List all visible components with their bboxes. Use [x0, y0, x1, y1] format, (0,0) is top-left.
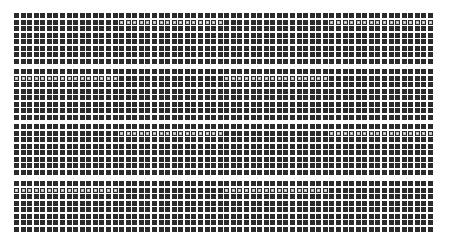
dark-square — [375, 227, 380, 232]
highlighted-square — [152, 131, 157, 136]
dark-square — [139, 188, 144, 193]
dark-square — [303, 144, 308, 149]
dark-square — [395, 102, 400, 107]
dark-square — [303, 102, 308, 107]
dark-square — [356, 137, 361, 142]
dark-square — [80, 131, 85, 136]
dark-square — [283, 207, 288, 212]
dark-square — [119, 108, 124, 113]
dark-square — [211, 82, 216, 87]
dark-square — [40, 201, 45, 206]
dark-square — [421, 207, 426, 212]
dark-square — [165, 108, 170, 113]
dark-square — [277, 131, 282, 136]
dark-square — [224, 33, 229, 38]
dark-square — [408, 227, 413, 232]
dark-square — [27, 131, 32, 136]
dark-square — [145, 39, 150, 44]
dark-square — [421, 188, 426, 193]
dark-square — [159, 89, 164, 94]
dark-square — [244, 82, 249, 87]
dark-square — [356, 76, 361, 81]
dark-square — [283, 89, 288, 94]
dark-square — [303, 137, 308, 142]
dark-square — [270, 33, 275, 38]
dark-square — [290, 163, 295, 168]
dark-square — [191, 89, 196, 94]
dark-square — [231, 20, 236, 25]
highlighted-square — [277, 188, 282, 193]
dark-square — [382, 170, 387, 175]
dark-square — [402, 220, 407, 225]
dark-square — [415, 108, 420, 113]
highlighted-square — [40, 188, 45, 193]
dark-square — [283, 52, 288, 57]
dark-square — [408, 163, 413, 168]
dark-square — [53, 150, 58, 155]
dark-square — [408, 115, 413, 120]
dark-square — [40, 137, 45, 142]
dark-square — [106, 227, 111, 232]
dark-square — [297, 157, 302, 162]
dark-square — [191, 194, 196, 199]
dark-square — [53, 13, 58, 18]
dark-square — [152, 201, 157, 206]
dark-square — [53, 207, 58, 212]
dark-square — [323, 46, 328, 51]
dark-square — [132, 89, 137, 94]
dark-square — [152, 13, 157, 18]
dark-square — [310, 131, 315, 136]
dark-square — [211, 59, 216, 64]
dark-square — [277, 163, 282, 168]
dark-square — [119, 137, 124, 142]
dark-square — [382, 102, 387, 107]
dark-square — [415, 59, 420, 64]
dark-square — [369, 181, 374, 186]
dark-square — [415, 157, 420, 162]
dark-square — [93, 26, 98, 31]
dark-square — [369, 13, 374, 18]
dark-square — [86, 131, 91, 136]
dark-square — [237, 220, 242, 225]
dark-square — [126, 137, 131, 142]
dark-square — [329, 220, 334, 225]
dark-square — [415, 89, 420, 94]
dark-square — [119, 115, 124, 120]
dark-square — [67, 89, 72, 94]
dark-square — [60, 214, 65, 219]
dark-square — [356, 194, 361, 199]
dark-square — [264, 39, 269, 44]
dark-square — [40, 157, 45, 162]
dark-square — [402, 181, 407, 186]
dark-square — [290, 170, 295, 175]
dark-square — [60, 124, 65, 129]
dark-square — [14, 108, 19, 113]
dark-square — [47, 89, 52, 94]
highlighted-square — [237, 188, 242, 193]
dark-square — [362, 170, 367, 175]
dark-square — [93, 115, 98, 120]
dark-square — [40, 102, 45, 107]
dark-square — [73, 163, 78, 168]
dark-square — [362, 124, 367, 129]
dark-square — [126, 188, 131, 193]
dark-square — [369, 89, 374, 94]
dark-square — [231, 89, 236, 94]
dark-square — [231, 137, 236, 142]
dark-square — [21, 46, 26, 51]
dark-square — [21, 131, 26, 136]
dark-square — [53, 95, 58, 100]
dark-square — [60, 102, 65, 107]
dark-square — [145, 46, 150, 51]
dark-square — [316, 150, 321, 155]
dark-square — [310, 163, 315, 168]
dark-square — [251, 157, 256, 162]
dark-square — [421, 137, 426, 142]
dark-square — [132, 115, 137, 120]
highlighted-square — [145, 131, 150, 136]
dark-square — [211, 137, 216, 142]
dark-square — [205, 82, 210, 87]
dark-square — [297, 102, 302, 107]
dark-square — [415, 69, 420, 74]
dark-square — [316, 144, 321, 149]
